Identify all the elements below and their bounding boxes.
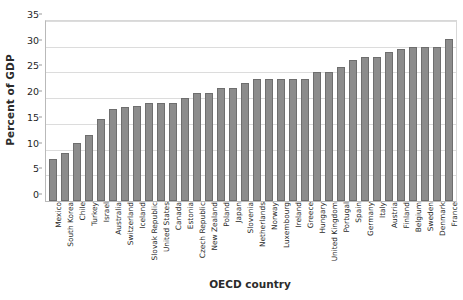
x-axis-title: OECD country [45,278,455,290]
bar [373,57,382,201]
bar-slot [167,21,179,201]
bar [241,83,250,201]
bar-slot [227,21,239,201]
bar-slot [59,21,71,201]
x-tick-slot: Chile [70,202,82,274]
bar [193,93,202,201]
x-tick-slot: Sweden [418,202,430,274]
x-axis-tick-label: France [451,202,459,227]
bar [337,67,346,201]
bar [217,88,226,201]
plot-area [45,20,457,202]
bar-slot [143,21,155,201]
bar-slot [107,21,119,201]
x-tick-slot: Poland [214,202,226,274]
bar-slot [371,21,383,201]
x-tick-slot: Netherlands [250,202,262,274]
x-tick-slot: Finland [394,202,406,274]
bar-slot [407,21,419,201]
x-tick-slot: Mexico [46,202,58,274]
x-tick-slot: Switzerland [118,202,130,274]
x-tick-slot: Estonia [178,202,190,274]
y-axis-tick-labels: 05101520253035 [18,14,42,202]
bar [205,93,214,201]
x-tick-slot: New Zealand [202,202,214,274]
bar-slot [203,21,215,201]
x-tick-slot: Italy [370,202,382,274]
bar [229,88,238,201]
bar-slot [299,21,311,201]
y-axis-tick-mark [39,91,42,92]
bar-chart: Percent of GDP 05101520253035 MexicoSout… [0,0,463,300]
x-tick-slot: Japan [226,202,238,274]
bar-slot [119,21,131,201]
x-tick-slot: Belgium [406,202,418,274]
bar-slot [383,21,395,201]
x-tick-slot: Norway [262,202,274,274]
y-axis-tick-label: 30 [27,34,39,45]
y-axis-tick-mark [39,39,42,40]
y-axis-tick-label: 10 [27,137,39,148]
bar-slot [395,21,407,201]
bar-slot [215,21,227,201]
bar-slot [311,21,323,201]
bar [73,143,82,201]
x-tick-slot: Slovak Republic [142,202,154,274]
bar [121,107,130,201]
bar [313,72,322,201]
x-tick-slot: Denmark [430,202,442,274]
bar [289,79,298,201]
y-axis-tick-label: 20 [27,86,39,97]
bar [301,79,310,201]
bar [109,109,118,201]
bar-slot [95,21,107,201]
x-tick-slot: Turkey [82,202,94,274]
bar-slot [443,21,455,201]
bar-slot [359,21,371,201]
y-axis-tick-mark [39,14,42,15]
x-tick-slot: Germany [358,202,370,274]
y-axis-tick-mark [39,65,42,66]
bar-series [46,21,456,201]
bar [325,72,334,201]
y-axis-title: Percent of GDP [0,0,20,200]
bar [421,47,430,201]
bar [157,103,166,201]
x-tick-slot: Greece [298,202,310,274]
y-axis-tick-mark [39,116,42,117]
y-axis-tick-label: 35 [27,9,39,20]
bar-slot [251,21,263,201]
bar-slot [323,21,335,201]
bar-slot [263,21,275,201]
x-tick-slot: Israel [94,202,106,274]
bar [253,79,262,201]
bar [85,135,94,201]
bar [409,47,418,201]
x-tick-slot: Hungary [310,202,322,274]
y-axis-title-text: Percent of GDP [4,54,16,145]
bar-slot [83,21,95,201]
bar-slot [131,21,143,201]
bar-slot [275,21,287,201]
bar [61,153,70,201]
bar-slot [431,21,443,201]
x-axis-tick-labels: MexicoSouth KoreaChileTurkeyIsraelAustra… [45,202,455,274]
bar [349,60,358,201]
y-axis-tick-mark [39,142,42,143]
x-tick-slot: Austria [382,202,394,274]
bar [145,103,154,201]
y-axis-tick-label: 25 [27,60,39,71]
x-tick-slot: Czech Republic [190,202,202,274]
bar-slot [179,21,191,201]
x-tick-slot: United States [154,202,166,274]
bar-slot [419,21,431,201]
x-tick-slot: Spain [346,202,358,274]
bar [397,49,406,201]
bar [169,103,178,201]
bar [361,57,370,201]
bar-slot [347,21,359,201]
bar [385,52,394,201]
bar [97,119,106,201]
bar [133,106,142,201]
bar [445,39,454,201]
